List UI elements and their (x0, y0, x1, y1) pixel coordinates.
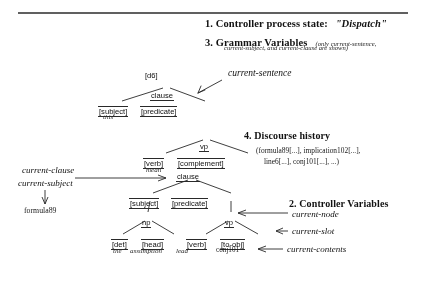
formula-reference: formula89 (24, 206, 56, 215)
tree-node-predicate-2: [predicate] (171, 192, 208, 210)
terminal-mean: mean (146, 166, 161, 174)
controller-process-state-line: 1. Controller process state: "Dispatch" (205, 18, 387, 29)
tree-node-vp-2: vp (224, 211, 234, 229)
page-top-rule (18, 12, 408, 14)
node-label: [verb] (186, 239, 207, 250)
discourse-history-line2: line6[...], conj101[...], ...) (264, 157, 339, 166)
controller-variable-current-slot: current-slot (292, 226, 334, 236)
node-label: [subject] (129, 198, 159, 209)
controller-process-state-value: "Dispatch" (336, 18, 387, 29)
grammar-variables-note-line2: current-subject, and current-clause are … (224, 44, 348, 51)
tree-node-np: np (141, 211, 151, 229)
parse-tree-figure: 1. Controller process state: "Dispatch" … (0, 0, 426, 285)
terminal-conj101: conj101 (216, 246, 239, 254)
tree-node-vp-1: vp (199, 135, 209, 153)
tree-node-verb-2: [verb] (186, 233, 207, 251)
terminal-the: the (113, 247, 122, 255)
tree-node-predicate-1: [predicate] (140, 100, 177, 118)
controller-variables-heading: 2. Controller Variables (289, 198, 388, 209)
node-label: np (141, 218, 151, 228)
tree-node-clause-2: clause (176, 165, 200, 183)
node-label: clause (176, 172, 200, 182)
discourse-id-label: [d6] (145, 71, 158, 80)
terminal-this: this (103, 113, 113, 121)
controller-variable-current-node: current-node (292, 209, 339, 219)
controller-process-state-label: 1. Controller process state: (205, 18, 328, 29)
node-label: vp (199, 142, 209, 152)
controller-variable-current-contents: current-contents (287, 244, 346, 254)
node-label: [predicate] (140, 106, 177, 117)
node-label: vp (224, 218, 234, 228)
discourse-history-heading: 4. Discourse history (244, 130, 330, 141)
terminal-lead: lead (176, 247, 188, 255)
terminal-assumption: assumption (130, 247, 162, 255)
tree-node-subject-2: [subject] (129, 192, 159, 210)
node-label: [predicate] (171, 198, 208, 209)
discourse-history-line1: (formula89[...], implication102[...], (256, 146, 360, 155)
grammar-variable-current-subject: current-subject (18, 178, 73, 188)
grammar-variable-current-clause: current-clause (22, 165, 74, 175)
grammar-variable-current-sentence: current-sentence (228, 68, 291, 78)
